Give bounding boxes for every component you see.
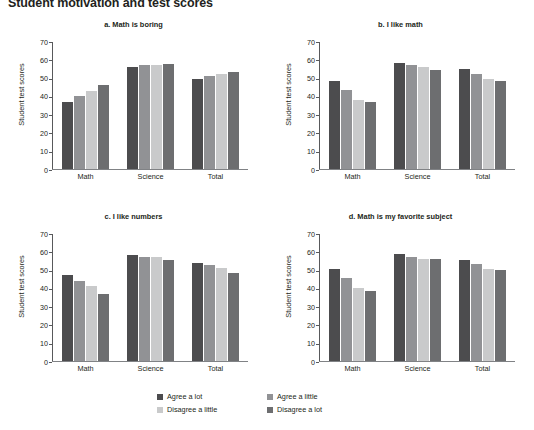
bar <box>86 91 97 169</box>
chart-a-ylabel: Student test scores <box>17 35 26 155</box>
y-axis-tick-label: 30 <box>26 304 48 311</box>
bar-group-math <box>329 42 376 169</box>
y-axis-tick-mark <box>49 325 52 326</box>
y-axis-tick-mark <box>316 115 319 116</box>
y-axis-tick-mark <box>49 170 52 171</box>
bar <box>151 257 162 361</box>
bar-group-math <box>62 234 109 361</box>
chart-d-bars <box>320 234 515 361</box>
bar <box>86 286 97 361</box>
y-axis-tick-mark <box>316 252 319 253</box>
x-axis-tick-label: Science <box>388 364 448 373</box>
bar <box>418 259 429 361</box>
bar-group-total <box>192 42 239 169</box>
y-axis-tick-mark <box>49 79 52 80</box>
page-title: Student motivation and test scores <box>8 0 213 10</box>
chart-c-title: c. I like numbers <box>0 212 267 221</box>
chart-b-title: b. I like math <box>267 20 534 29</box>
bar <box>329 81 340 169</box>
bar-group-science <box>394 42 441 169</box>
chart-c-bars <box>53 234 248 361</box>
y-axis-tick-label: 40 <box>26 285 48 292</box>
bar-group-science <box>127 234 174 361</box>
y-axis-tick-label: 50 <box>293 267 315 274</box>
y-axis-tick-mark <box>49 133 52 134</box>
x-axis-tick-label: Math <box>323 172 383 181</box>
y-axis-tick-label: 70 <box>26 39 48 46</box>
y-axis-tick-label: 40 <box>293 93 315 100</box>
y-axis-tick-mark <box>49 307 52 308</box>
x-axis-line <box>319 361 515 362</box>
legend-row-1: Agree a lot Agree a little <box>157 392 377 401</box>
y-axis-tick-mark <box>49 362 52 363</box>
y-axis-tick-mark <box>316 344 319 345</box>
chart-d-axes: 706050403020100 <box>319 234 515 362</box>
chart-a-axes: 706050403020100 <box>52 42 248 170</box>
legend-label: Disagree a lot <box>277 405 322 414</box>
chart-b-plot: Student test scores 706050403020100 Math… <box>267 34 534 200</box>
x-axis-tick-label: Math <box>56 364 116 373</box>
bar <box>483 269 494 361</box>
bar <box>204 265 215 361</box>
bar <box>216 74 227 169</box>
legend-swatch-icon <box>267 407 273 413</box>
legend-label: Agree a little <box>277 392 318 401</box>
bar <box>216 268 227 361</box>
bar <box>127 67 138 169</box>
y-axis-tick-label: 20 <box>293 322 315 329</box>
chart-d-xticks: MathScienceTotal <box>320 364 515 373</box>
chart-panel-d: d. Math is my favorite subject Student t… <box>267 206 534 394</box>
legend-label: Disagree a little <box>167 405 217 414</box>
bar <box>459 260 470 361</box>
y-axis-tick-label: 20 <box>293 130 315 137</box>
chart-a-title: a. Math is boring <box>0 20 267 29</box>
bar <box>74 281 85 361</box>
bar <box>151 65 162 169</box>
bar-group-total <box>459 42 506 169</box>
legend-item-disagree-a-lot: Disagree a lot <box>267 405 377 414</box>
y-axis-tick-mark <box>316 152 319 153</box>
y-axis-tick-label: 30 <box>26 112 48 119</box>
bar-group-total <box>459 234 506 361</box>
legend-label: Agree a lot <box>167 392 202 401</box>
y-axis-tick-label: 10 <box>26 148 48 155</box>
legend-swatch-icon <box>267 394 273 400</box>
y-axis-tick-mark <box>49 252 52 253</box>
bar <box>127 255 138 361</box>
bar <box>98 85 109 169</box>
bar <box>430 259 441 361</box>
y-axis-tick-mark <box>316 170 319 171</box>
legend-item-agree-a-lot: Agree a lot <box>157 392 267 401</box>
bar <box>163 260 174 361</box>
chart-d-title: d. Math is my favorite subject <box>267 212 534 221</box>
bar-group-math <box>329 234 376 361</box>
bar <box>406 257 417 361</box>
chart-a-xticks: MathScienceTotal <box>53 172 248 181</box>
y-axis-tick-label: 50 <box>293 75 315 82</box>
y-axis-tick-mark <box>316 97 319 98</box>
y-axis-tick-label: 60 <box>293 249 315 256</box>
bar <box>394 254 405 361</box>
bar <box>483 79 494 170</box>
y-axis-tick-mark <box>316 60 319 61</box>
legend-swatch-icon <box>157 407 163 413</box>
x-axis-tick-label: Total <box>453 172 513 181</box>
y-axis-tick-mark <box>316 307 319 308</box>
chart-c-xticks: MathScienceTotal <box>53 364 248 373</box>
bar <box>163 64 174 169</box>
bar-group-math <box>62 42 109 169</box>
chart-b-xticks: MathScienceTotal <box>320 172 515 181</box>
bar-group-total <box>192 234 239 361</box>
y-axis-tick-label: 70 <box>26 231 48 238</box>
y-axis-tick-label: 40 <box>26 93 48 100</box>
chart-b-axes: 706050403020100 <box>319 42 515 170</box>
y-axis-tick-mark <box>316 133 319 134</box>
y-axis-tick-mark <box>316 271 319 272</box>
y-axis-tick-label: 0 <box>26 167 48 174</box>
bar <box>394 63 405 169</box>
y-axis-tick-label: 10 <box>293 148 315 155</box>
y-axis-tick-mark <box>49 152 52 153</box>
y-axis-tick-label: 70 <box>293 39 315 46</box>
y-axis-tick-mark <box>49 60 52 61</box>
y-axis-tick-label: 50 <box>26 75 48 82</box>
